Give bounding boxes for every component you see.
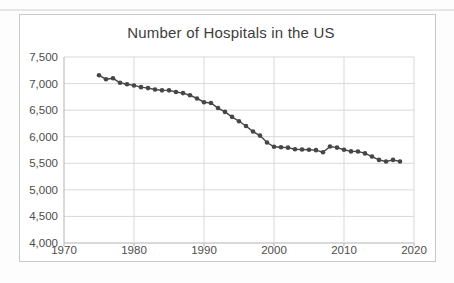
data-point — [223, 110, 228, 115]
data-point — [244, 124, 249, 129]
data-point — [328, 144, 333, 149]
chart-frame: Number of Hospitals in the US 4,0004,500… — [19, 14, 436, 262]
data-point — [370, 154, 375, 159]
data-point — [202, 100, 207, 105]
data-point — [160, 88, 165, 93]
data-point — [139, 85, 144, 90]
data-point — [363, 151, 368, 156]
plot-area — [64, 57, 414, 249]
data-point — [174, 90, 179, 95]
scan-artifact-line — [0, 9, 454, 11]
data-point — [167, 88, 172, 93]
data-point — [111, 76, 116, 81]
y-tick-label: 7,500 — [22, 51, 58, 63]
data-point — [146, 86, 151, 91]
chart-title: Number of Hospitals in the US — [56, 24, 406, 41]
data-point — [342, 147, 347, 152]
data-point — [391, 158, 396, 163]
data-point — [335, 145, 340, 150]
data-point — [307, 147, 312, 152]
trend-line — [99, 75, 400, 161]
data-point — [272, 145, 277, 150]
data-point — [188, 93, 193, 98]
data-point — [314, 148, 319, 153]
data-point — [279, 145, 284, 150]
y-tick-label: 6,500 — [22, 104, 58, 116]
data-point — [286, 145, 291, 150]
data-point — [118, 80, 123, 85]
data-point — [384, 159, 389, 164]
data-point — [104, 77, 109, 82]
data-point — [293, 147, 298, 152]
data-point — [97, 73, 102, 78]
y-tick-label: 6,000 — [22, 131, 58, 143]
y-tick-label: 4,500 — [22, 210, 58, 222]
data-point — [265, 140, 270, 145]
data-point — [237, 119, 242, 124]
data-point — [300, 147, 305, 152]
data-point — [258, 133, 263, 138]
data-point — [125, 82, 130, 87]
y-tick-label: 7,000 — [22, 78, 58, 90]
y-tick-label: 5,000 — [22, 184, 58, 196]
data-point — [181, 91, 186, 96]
data-point — [356, 149, 361, 154]
data-point — [398, 159, 403, 164]
data-point — [251, 129, 256, 134]
data-point — [209, 101, 214, 106]
data-point — [153, 87, 158, 92]
data-point — [195, 96, 200, 101]
data-point — [349, 149, 354, 154]
data-point — [132, 83, 137, 88]
data-point — [230, 115, 235, 120]
y-tick-label: 5,500 — [22, 157, 58, 169]
data-point — [321, 150, 326, 155]
data-point — [377, 158, 382, 163]
data-point — [216, 106, 221, 111]
